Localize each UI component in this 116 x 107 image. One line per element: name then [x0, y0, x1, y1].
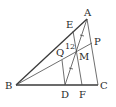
- tick-mark-MD: [69, 68, 73, 69]
- tick-mark-AM: [80, 35, 84, 36]
- segment-QD: [62, 60, 65, 85]
- point-label-P: P: [94, 36, 101, 47]
- point-label-C: C: [100, 80, 108, 91]
- point-label-F: F: [79, 89, 86, 100]
- point-label-E: E: [66, 19, 73, 30]
- point-label-D: D: [61, 89, 69, 100]
- geometry-diagram: A B C D F E P M Q 12: [0, 0, 116, 107]
- point-label-B: B: [5, 80, 12, 91]
- point-label-A: A: [83, 7, 92, 18]
- point-label-M: M: [79, 51, 89, 62]
- angle-label-12: 12: [65, 42, 75, 51]
- point-label-Q: Q: [56, 47, 64, 58]
